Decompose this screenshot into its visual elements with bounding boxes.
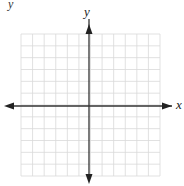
grid-lines — [21, 34, 160, 176]
coordinate-plane: y x — [0, 0, 184, 186]
x-axis-label: x — [175, 97, 182, 112]
arrow-left-icon — [4, 103, 14, 110]
y-axis-label: y — [82, 4, 90, 19]
arrow-right-icon — [162, 103, 172, 110]
arrow-down-icon — [86, 174, 93, 184]
arrow-up-icon — [86, 24, 93, 34]
